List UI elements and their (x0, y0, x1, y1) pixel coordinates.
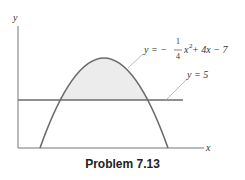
line-equation-label: y = 5 (186, 69, 208, 80)
x-axis-label: x (205, 142, 211, 153)
svg-text:y = −: y = − (143, 44, 167, 55)
curve-leader-line (128, 54, 143, 68)
y-axis-label: y (12, 12, 18, 23)
diagram: y x y = − 1 4 x 2 + 4x − 7 y = 5 (0, 0, 245, 180)
svg-text:+ 4x − 7: + 4x − 7 (192, 44, 228, 55)
svg-text:4: 4 (176, 52, 180, 61)
figure-caption: Problem 7.13 (0, 157, 245, 171)
curve-equation-label: y = − 1 4 x 2 + 4x − 7 (143, 37, 228, 61)
line-leader-line (166, 80, 186, 100)
svg-text:1: 1 (176, 37, 180, 46)
